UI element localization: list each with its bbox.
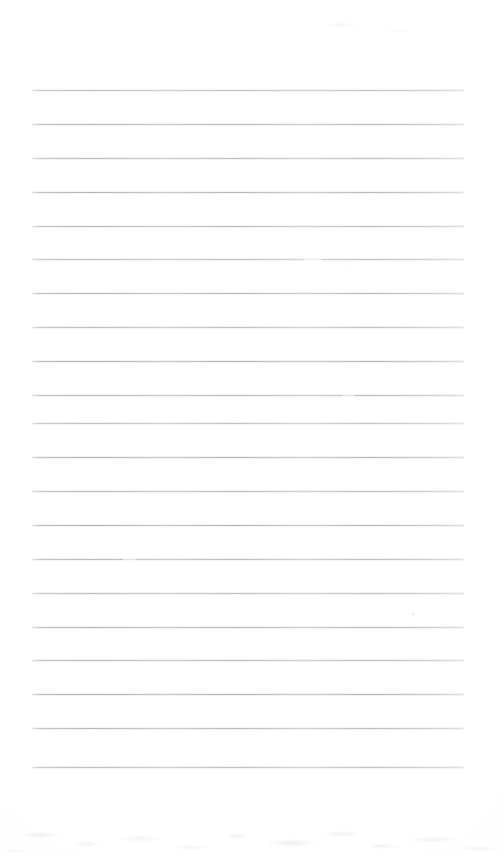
ruled-line-break xyxy=(304,258,321,261)
ruled-line-ink xyxy=(33,423,463,424)
ruled-line-ink xyxy=(33,694,463,695)
ruled-line xyxy=(33,423,463,424)
ruled-line xyxy=(33,327,463,328)
ruled-line-ink xyxy=(33,259,463,260)
ruled-line-ink xyxy=(33,593,463,594)
ruled-line-ink xyxy=(33,124,463,125)
ruled-line xyxy=(33,593,463,594)
ruled-line xyxy=(33,158,463,159)
ruled-line xyxy=(33,559,463,560)
ruled-line-ink xyxy=(33,192,463,193)
ruled-line-ink xyxy=(33,525,463,526)
ruled-line xyxy=(33,124,463,125)
ruled-line-ink xyxy=(33,226,463,227)
ruled-line xyxy=(33,457,463,458)
ruled-line-ink xyxy=(33,660,463,661)
ruled-line-ink xyxy=(33,559,463,560)
paper-speck xyxy=(344,271,345,272)
ruled-line xyxy=(33,293,463,294)
paper-speck xyxy=(412,613,414,615)
ruled-line xyxy=(33,767,463,768)
ruled-line-ink xyxy=(33,327,463,328)
ruled-line xyxy=(33,627,463,628)
ruled-line-break xyxy=(343,394,356,397)
ruled-line xyxy=(33,491,463,492)
ruled-line-ink xyxy=(33,457,463,458)
ruled-line-ink xyxy=(33,728,463,729)
ruled-line xyxy=(33,728,463,729)
ruled-line xyxy=(33,226,463,227)
ruled-line xyxy=(33,259,463,260)
ruled-line xyxy=(33,361,463,362)
ruled-line-break xyxy=(123,558,136,561)
ruled-line xyxy=(33,192,463,193)
ruled-line-ink xyxy=(33,90,463,91)
ruled-line-ink xyxy=(33,293,463,294)
ruled-line xyxy=(33,525,463,526)
ruled-line-ink xyxy=(33,395,463,396)
ruled-line xyxy=(33,395,463,396)
ruled-line xyxy=(33,694,463,695)
ruled-line-ink xyxy=(33,158,463,159)
ruled-line xyxy=(33,660,463,661)
ruled-line-ink xyxy=(33,767,463,768)
ruled-line-ink xyxy=(33,361,463,362)
ruled-lines-group xyxy=(0,0,503,855)
ruled-line-ink xyxy=(33,627,463,628)
ruled-line xyxy=(33,90,463,91)
ruled-line-ink xyxy=(33,491,463,492)
scanned-page xyxy=(0,0,503,855)
